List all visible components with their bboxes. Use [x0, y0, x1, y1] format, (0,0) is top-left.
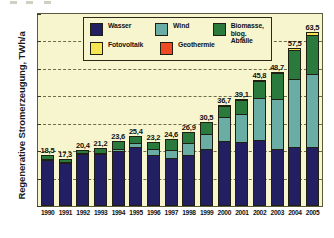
- stacked-bar: 25,4: [129, 136, 142, 206]
- x-tick-label: 1999: [200, 209, 213, 216]
- stacked-bar: 39,1: [235, 99, 248, 206]
- legend-swatch-wind: [155, 23, 168, 36]
- stacked-bar: 48,7: [271, 72, 284, 206]
- x-tick-label: 2004: [288, 209, 301, 216]
- bar-segment-wind: [236, 115, 247, 143]
- bar-segment-bio: [113, 142, 124, 149]
- bar-segment-wasser: [219, 142, 230, 205]
- bar-group: 18,5: [41, 14, 54, 206]
- legend-label-wind: Wind: [173, 22, 189, 30]
- bar-segment-bio: [219, 107, 230, 117]
- stacked-bar: 20,4: [76, 150, 89, 206]
- stacked-bar: 23,2: [147, 142, 160, 206]
- legend-label-fotovoltaik: Fotovoltaik: [108, 41, 143, 49]
- bar-total-label: 45,8: [252, 71, 266, 80]
- bar-total-label: 21,2: [94, 139, 108, 148]
- legend-item-wasser: Wasser: [90, 22, 155, 41]
- x-tick-label: 2002: [253, 209, 266, 216]
- bar-total-label: 17,3: [58, 150, 72, 159]
- bar-segment-wind: [272, 100, 283, 150]
- y-tick-mark: [37, 206, 41, 207]
- bar-total-label: 23,6: [111, 132, 125, 141]
- stacked-bar: 17,3: [59, 159, 72, 206]
- bar-total-label: 24,6: [164, 130, 178, 139]
- stacked-bar: 26,9: [182, 132, 195, 206]
- bar-segment-wasser: [183, 156, 194, 205]
- bar-segment-wasser: [113, 152, 124, 205]
- x-tick-label: 2003: [271, 209, 284, 216]
- bar-total-label: 25,4: [129, 127, 143, 136]
- bar-total-label: 39,1: [235, 90, 249, 99]
- bar-total-label: 36,7: [217, 96, 231, 105]
- x-tick-label: 2000: [218, 209, 231, 216]
- x-tick-label: 1997: [165, 209, 178, 216]
- bar-total-label: 23,2: [147, 133, 161, 142]
- bar-group: 48,7: [271, 14, 284, 206]
- bar-segment-wasser: [148, 156, 159, 205]
- stacked-bar: 45,8: [253, 80, 266, 206]
- x-tick-label: 2001: [235, 209, 248, 216]
- stacked-bar: 23,6: [112, 141, 125, 206]
- bar-segment-bio: [183, 133, 194, 143]
- bar-segment-bio: [236, 101, 247, 115]
- x-axis-labels: 1990199119921993199419951996199719981999…: [38, 209, 322, 216]
- bar-segment-wasser: [272, 150, 283, 205]
- x-tick-label: 1995: [129, 209, 142, 216]
- bar-segment-wasser: [254, 141, 265, 205]
- legend-swatch-biomasse: [213, 23, 226, 36]
- chart-figure: Regenerative Stromerzeugung, TWh/a 01020…: [0, 0, 334, 238]
- bar-segment-wasser: [289, 148, 300, 205]
- legend-item-wind: Wind: [155, 22, 213, 41]
- bar-total-label: 57,5: [288, 39, 302, 48]
- bar-segment-wasser: [236, 143, 247, 205]
- stacked-bar: 63,5: [306, 32, 319, 206]
- stacked-bar: 36,7: [218, 105, 231, 206]
- bar-segment-wasser: [60, 164, 71, 205]
- bar-segment-wind: [166, 151, 177, 159]
- bar-segment-wasser: [130, 148, 141, 205]
- y-axis-title: Regenerative Stromerzeugung, TWh/a: [16, 26, 27, 206]
- legend-item-fotovoltaik: Fotovoltaik: [90, 41, 160, 60]
- x-tick-label: 1994: [112, 209, 125, 216]
- bar-segment-wasser: [95, 155, 106, 205]
- x-tick-label: 1998: [182, 209, 195, 216]
- bar-segment-wind: [201, 135, 212, 150]
- x-tick-label: 2005: [306, 209, 319, 216]
- bar-group: 17,3: [59, 14, 72, 206]
- bar-segment-bio: [201, 123, 212, 135]
- bar-segment-wasser: [201, 150, 212, 205]
- bar-total-label: 18,5: [41, 146, 55, 155]
- scan-artifacts: [10, 1, 70, 6]
- bar-segment-bio: [307, 36, 318, 75]
- bar-total-label: 20,4: [76, 141, 90, 150]
- bar-segment-bio: [166, 140, 177, 151]
- bar-group: 57,5: [288, 14, 301, 206]
- stacked-bar: 57,5: [288, 48, 301, 206]
- legend-item-biomasse: Biomasse, biog. Abfälle: [213, 22, 266, 41]
- bar-segment-wind: [289, 80, 300, 149]
- bar-segment-bio: [289, 51, 300, 80]
- bar-group: 63,5: [306, 14, 319, 206]
- legend-row-1: Wasser Wind Biomasse, biog. Abfälle: [90, 22, 266, 41]
- x-tick-label: 1992: [76, 209, 89, 216]
- bar-total-label: 26,9: [182, 123, 196, 132]
- stacked-bar: 30,5: [200, 122, 213, 206]
- stacked-bar: 18,5: [41, 155, 54, 206]
- x-tick-label: 1991: [59, 209, 72, 216]
- bar-segment-wasser: [77, 155, 88, 205]
- legend-swatch-fotovoltaik: [90, 42, 103, 55]
- chart-legend: Wasser Wind Biomasse, biog. Abfälle Foto…: [83, 17, 272, 61]
- bar-segment-wind: [254, 99, 265, 141]
- bar-total-label: 48,7: [270, 63, 284, 72]
- legend-item-geothermie: Geothermie: [160, 41, 222, 60]
- legend-swatch-wasser: [90, 23, 103, 36]
- bar-segment-wind: [183, 144, 194, 156]
- legend-swatch-geothermie: [160, 42, 173, 55]
- x-tick-label: 1990: [41, 209, 54, 216]
- bar-total-label: 63,5: [305, 23, 319, 32]
- legend-label-biomasse-2: biog. Abfälle: [231, 30, 266, 45]
- legend-label-geothermie: Geothermie: [178, 41, 215, 49]
- legend-label-wasser: Wasser: [108, 22, 131, 30]
- stacked-bar: 24,6: [165, 139, 178, 206]
- bar-segment-bio: [254, 82, 265, 98]
